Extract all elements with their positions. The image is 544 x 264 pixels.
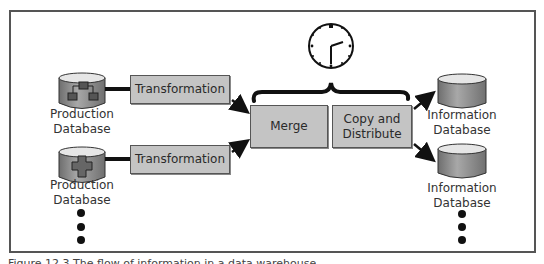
information-database-1-icon <box>438 74 486 108</box>
transformation-box-1[interactable]: Transformation <box>130 75 230 104</box>
arrow-transform2-merge <box>232 142 246 152</box>
label-line: Information <box>420 108 504 123</box>
label-line: Information <box>420 181 504 196</box>
arrow-distribute-target2 <box>414 144 432 159</box>
copy-distribute-box[interactable]: Copy and Distribute <box>332 105 412 148</box>
label-line: Database <box>420 196 504 211</box>
information-database-2-label: Information Database <box>420 181 504 211</box>
production-database-1-icon <box>59 73 105 109</box>
clock-icon <box>309 24 353 68</box>
information-database-2-icon <box>438 144 486 178</box>
merge-box[interactable]: Merge <box>250 105 328 148</box>
arrow-transform1-merge <box>232 100 246 111</box>
transformation-label: Transformation <box>135 152 225 167</box>
information-database-1-label: Information Database <box>420 108 504 138</box>
arrow-distribute-target1 <box>414 94 432 109</box>
label-line: Database <box>420 123 504 138</box>
label-line: Production <box>44 107 120 122</box>
label-line: Production <box>44 178 120 193</box>
label-line: Database <box>44 193 120 208</box>
figure-caption: Figure 12.3 The flow of information in a… <box>8 256 316 264</box>
copy-distribute-label-line2: Distribute <box>342 127 401 142</box>
transformation-box-2[interactable]: Transformation <box>130 145 230 174</box>
production-database-2-label: Production Database <box>44 178 120 208</box>
production-database-1-label: Production Database <box>44 107 120 137</box>
transformation-label: Transformation <box>135 82 225 97</box>
more-targets-ellipsis-icon <box>458 210 466 244</box>
label-line: Database <box>44 122 120 137</box>
more-sources-ellipsis-icon <box>77 209 85 244</box>
merge-label: Merge <box>270 119 307 134</box>
copy-distribute-label-line1: Copy and <box>344 112 401 127</box>
curly-brace <box>254 83 408 101</box>
